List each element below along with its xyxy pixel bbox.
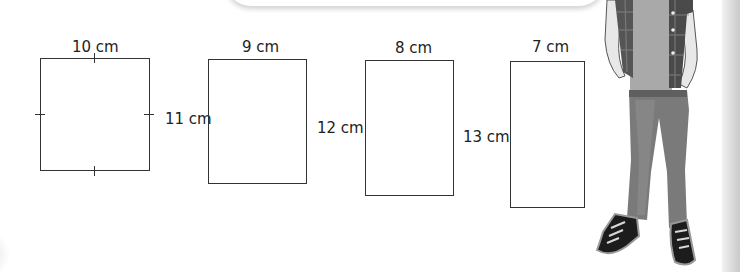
- equal-side-tick-bottom: [94, 166, 95, 176]
- rect-a-top-label: 9 cm: [242, 40, 279, 55]
- page-edge-shadow: [722, 0, 740, 272]
- speech-bubble-edge: [225, 0, 605, 6]
- rect-c-outline: [510, 61, 585, 208]
- equal-side-tick-top: [94, 53, 95, 63]
- rect-b-outline: [365, 60, 454, 196]
- square-outline: [40, 58, 150, 171]
- left-sneaker-icon: [597, 214, 639, 253]
- rect-b-top-label: 8 cm: [395, 41, 432, 56]
- equal-side-tick-right: [144, 114, 154, 115]
- rect-c-top-label: 7 cm: [532, 40, 569, 55]
- rect-c-side-label: 13 cm: [463, 130, 510, 145]
- equal-side-tick-left: [35, 114, 45, 115]
- rect-a-outline: [208, 59, 307, 184]
- rect-a-side-label: 11 cm: [165, 112, 212, 127]
- corner-shadow: [0, 232, 10, 277]
- boy-illustration: [575, 0, 720, 272]
- rect-b-side-label: 12 cm: [317, 121, 364, 136]
- tshirt-icon: [630, 0, 672, 92]
- right-sneaker-icon: [671, 220, 696, 265]
